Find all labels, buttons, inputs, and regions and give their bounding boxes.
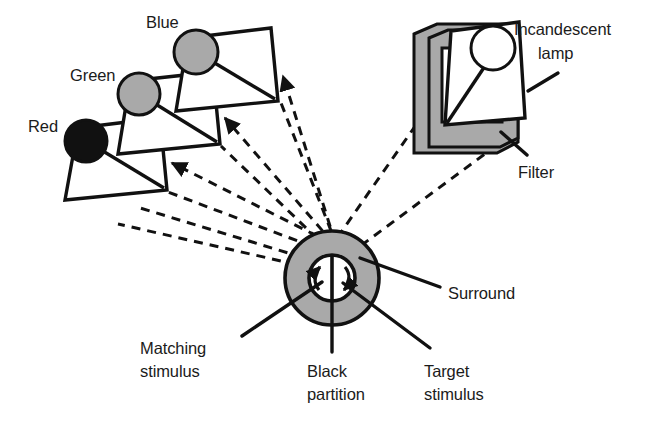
- red-label: Red: [28, 117, 58, 135]
- ray-lamp-left: [335, 112, 425, 241]
- ray-lamp-right: [355, 145, 497, 250]
- ray-to-red-upper: [172, 163, 331, 243]
- blue-lamp-icon: [174, 30, 218, 74]
- black-partition-label-line1: Black: [307, 362, 348, 380]
- black-partition-label-line2: partition: [307, 385, 365, 403]
- target-stimulus-label-line1: Target: [424, 362, 470, 380]
- figure-canvas: Red Green Blue Incandescent lamp Filte: [0, 0, 657, 427]
- blue-label: Blue: [146, 13, 179, 31]
- target-stimulus-label-line2: stimulus: [424, 385, 484, 403]
- green-label: Green: [70, 66, 115, 84]
- incandescent-lamp-label-line2: lamp: [538, 44, 573, 62]
- color-matching-apparatus-diagram: Red Green Blue Incandescent lamp Filte: [0, 0, 657, 427]
- incandescent-lamp-leader-line: [528, 73, 558, 91]
- green-lamp-icon: [118, 73, 160, 115]
- surround-label: Surround: [448, 284, 515, 302]
- matching-stimulus-label-line1: Matching: [140, 339, 206, 357]
- matching-stimulus-label-line2: stimulus: [140, 362, 200, 380]
- filter-label: Filter: [518, 163, 555, 181]
- incandescent-lamp-assembly[interactable]: Incandescent lamp Filter: [414, 20, 611, 181]
- incandescent-lamp-label-line1: Incandescent: [514, 20, 611, 38]
- red-lamp-icon: [65, 120, 107, 162]
- ray-fan-left-b: [118, 224, 312, 268]
- incandescent-bulb-icon: [471, 26, 515, 70]
- ray-to-blue-lower: [281, 103, 337, 246]
